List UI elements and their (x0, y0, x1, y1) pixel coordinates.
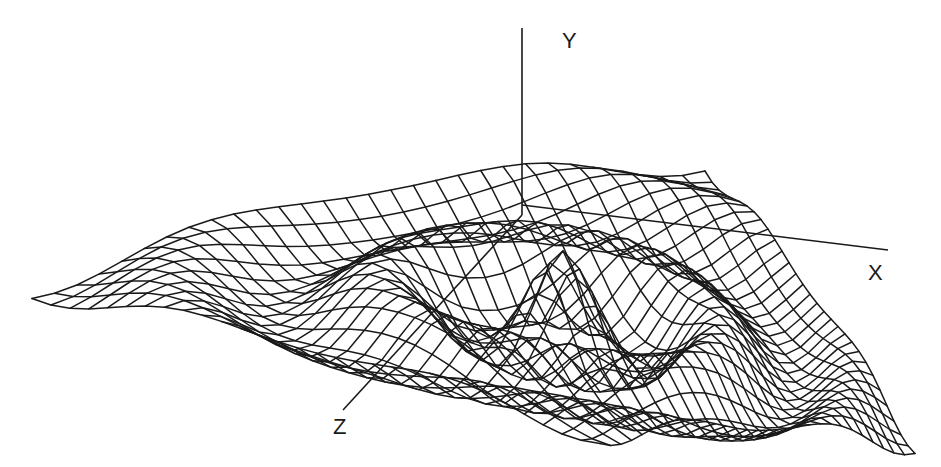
z-axis-label: Z (333, 416, 346, 438)
surface-plot (0, 0, 941, 467)
mesh-col-line (89, 181, 726, 309)
wireframe-mesh (32, 163, 915, 455)
mesh-row-line (32, 299, 600, 444)
mesh-row-line (683, 175, 905, 454)
mesh-row-line (503, 167, 820, 429)
mesh-row-line (660, 177, 894, 454)
x-axis-label: X (868, 262, 883, 284)
mesh-row-line (122, 258, 642, 435)
y-axis-label: Y (562, 30, 577, 52)
